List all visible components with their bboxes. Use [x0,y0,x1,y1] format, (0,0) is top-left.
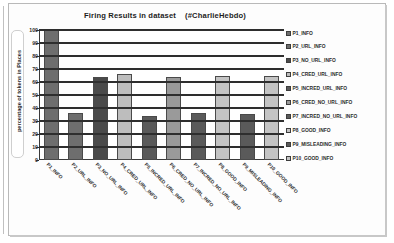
legend-swatch-icon [286,44,291,49]
legend-item[interactable]: P9_MISLEADING_INFO [286,139,346,149]
legend-item[interactable]: P6_CRED_NO_URL_INFO [286,98,352,108]
legend-swatch-icon [286,72,291,77]
legend-label: P1_INFO [293,31,313,36]
legend-label: P6_CRED_NO_URL_INFO [293,100,353,105]
y-axis-tick-mark [36,82,39,83]
legend-item[interactable]: P8_GOOD_INFO [286,125,331,135]
x-axis-label-slot: P9_MISLEADING_INFO [235,160,260,238]
chart-title: Firing Results in dataset (#CharlieHebdo… [40,11,290,20]
legend-swatch-icon [286,31,291,36]
gridline [39,94,284,95]
x-axis-label-slot: P2_URL_INFO [64,160,89,238]
gridline [39,120,284,121]
y-axis-tick-mark [36,69,39,70]
legend-label: P10_GOOD_INFO [293,156,334,161]
y-axis-tick-mark [36,30,39,31]
legend-label: P4_CRED_URL_INFO [293,72,343,77]
legend-item[interactable]: P4_CRED_URL_INFO [286,70,342,80]
bar[interactable] [142,116,157,160]
y-axis-title: percentage of tokens in Places [16,27,22,155]
y-axis-tick-mark [36,121,39,122]
legend-label: P5_INCRED_URL_INFO [293,86,348,91]
gridline [39,29,284,30]
legend-swatch-icon [286,114,291,119]
legend-item[interactable]: P7_INCRED_NO_URL_INFO [286,111,357,121]
legend-label: P9_MISLEADING_INFO [293,142,347,147]
x-axis-label-slot: P7_INCRED_NO_URL_INFO [186,160,211,238]
legend-item[interactable]: P5_INCRED_URL_INFO [286,84,347,94]
x-axis-tick-label: P1_INFO [45,162,63,180]
plot-wrapper: 1009080706050403020100 [26,30,284,160]
plot-area [39,30,284,160]
legend-label: P2_URL_INFO [293,44,326,49]
legend-swatch-icon [286,156,291,161]
x-axis-tick-labels: P1_INFOP2_URL_INFOP3_NO_URL_INFOP4_CRED_… [39,160,284,238]
x-axis-label-slot: P3_NO_URL_INFO [88,160,113,238]
gridline [39,42,284,43]
gridline [39,133,284,134]
x-axis-label-slot: P6_CRED_NO_URL_INFO [162,160,187,238]
chart-legend: P1_INFOP2_URL_INFOP3_NO_URL_INFOP4_CRED_… [286,28,386,168]
legend-item[interactable]: P2_URL_INFO [286,42,326,52]
legend-swatch-icon [286,142,291,147]
legend-item[interactable]: P10_GOOD_INFO [286,153,333,163]
legend-swatch-icon [286,128,291,133]
gridline [39,107,284,108]
chart-screenshot: Firing Results in dataset (#CharlieHebdo… [0,0,394,243]
y-axis-tick-mark [36,108,39,109]
gridline [39,55,284,56]
x-axis-label-slot: P10_GOOD_INFO [260,160,285,238]
x-axis-label-slot: P1_INFO [39,160,64,238]
y-axis-tick-mark [36,134,39,135]
x-axis-label-slot: P4_CRED_URL_INFO [113,160,138,238]
legend-swatch-icon [286,100,291,105]
legend-label: P3_NO_URL_INFO [293,58,336,63]
legend-item[interactable]: P1_INFO [286,28,313,38]
gridline [39,146,284,147]
y-axis-tick-mark [36,56,39,57]
legend-item[interactable]: P3_NO_URL_INFO [286,56,336,66]
page-left-rule [3,6,4,234]
gridline [39,68,284,69]
x-axis-label-slot: P5_INCRED_URL_INFO [137,160,162,238]
legend-label: P7_INCRED_NO_URL_INFO [293,114,358,119]
gridline [39,81,284,82]
legend-swatch-icon [286,86,291,91]
y-axis-title-box: percentage of tokens in Places [11,30,24,158]
y-axis-tick-mark [36,43,39,44]
x-axis-label-slot: P8_GOOD_INFO [211,160,236,238]
y-axis-tick-mark [36,95,39,96]
legend-swatch-icon [286,58,291,63]
y-axis-tick-mark [36,147,39,148]
legend-label: P8_GOOD_INFO [293,128,331,133]
